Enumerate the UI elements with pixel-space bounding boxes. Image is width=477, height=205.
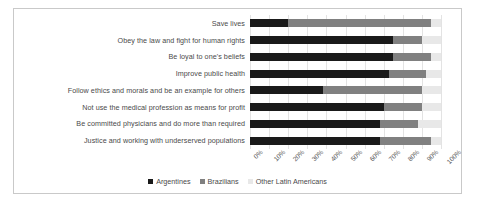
- bar-row: [250, 99, 441, 116]
- bar-segment: [288, 19, 431, 27]
- category-label: Obey the law and fight for human rights: [16, 32, 248, 49]
- axis-tick-label: 40%: [330, 149, 344, 163]
- bar-segment: [426, 70, 441, 78]
- bar-segment: [384, 103, 422, 111]
- axis-tick-label: 100%: [446, 149, 463, 166]
- bar-row: [250, 49, 441, 66]
- bar-track: [250, 137, 441, 145]
- bar-track: [250, 19, 441, 27]
- bar-row: [250, 15, 441, 32]
- axis-tick-label: 70%: [388, 149, 402, 163]
- legend-item: Brazilians: [200, 178, 239, 185]
- category-label: Follow ethics and morals and be an examp…: [16, 82, 248, 99]
- bar-track: [250, 86, 441, 94]
- gridline: [441, 15, 442, 149]
- bar-row: [250, 82, 441, 99]
- axis-tick-label: 0%: [253, 149, 264, 160]
- category-label: Be loyal to one's beliefs: [16, 49, 248, 66]
- bar-row: [250, 132, 441, 149]
- bar-track: [250, 120, 441, 128]
- bar-segment: [393, 53, 431, 61]
- legend-swatch-icon: [148, 179, 153, 184]
- category-axis: Save livesObey the law and fight for hum…: [16, 15, 248, 149]
- bar-track: [250, 70, 441, 78]
- axis-tick-label: 10%: [273, 149, 287, 163]
- bar-segment: [323, 86, 422, 94]
- category-label: Save lives: [16, 15, 248, 32]
- legend-swatch-icon: [248, 179, 253, 184]
- bar-segment: [250, 19, 288, 27]
- value-axis: 0%10%20%30%40%50%60%70%80%90%100%: [250, 149, 441, 177]
- bar-segment: [418, 120, 441, 128]
- bar-segment: [422, 103, 441, 111]
- axis-tick-label: 80%: [407, 149, 421, 163]
- category-label: Not use the medical profession as means …: [16, 99, 248, 116]
- axis-tick-label: 50%: [349, 149, 363, 163]
- category-label: Be committed physicians and do more than…: [16, 116, 248, 133]
- bar-series-group: [250, 15, 441, 149]
- bar-row: [250, 116, 441, 133]
- plot-area: [250, 15, 441, 149]
- bar-segment: [380, 120, 418, 128]
- bar-segment: [422, 36, 441, 44]
- legend-label: Other Latin Americans: [256, 178, 327, 185]
- bar-segment: [380, 137, 432, 145]
- bar-segment: [393, 36, 422, 44]
- bar-segment: [431, 53, 441, 61]
- axis-tick-label: 30%: [311, 149, 325, 163]
- legend-item: Argentines: [148, 178, 190, 185]
- chart-legend: ArgentinesBraziliansOther Latin American…: [14, 178, 461, 185]
- bar-segment: [250, 120, 380, 128]
- bar-segment: [250, 86, 323, 94]
- bar-segment: [422, 86, 441, 94]
- category-label: Justice and working with underserved pop…: [16, 132, 248, 149]
- axis-tick-label: 20%: [292, 149, 306, 163]
- legend-label: Brazilians: [208, 178, 239, 185]
- bar-segment: [250, 103, 384, 111]
- legend-swatch-icon: [200, 179, 205, 184]
- bar-track: [250, 36, 441, 44]
- bar-segment: [250, 53, 393, 61]
- bar-segment: [250, 137, 380, 145]
- legend-item: Other Latin Americans: [248, 178, 327, 185]
- category-label: Improve public health: [16, 65, 248, 82]
- chart-plot-wrapper: Save livesObey the law and fight for hum…: [14, 9, 461, 193]
- bar-segment: [431, 19, 441, 27]
- bar-segment: [250, 70, 389, 78]
- axis-tick-label: 60%: [368, 149, 382, 163]
- legend-label: Argentines: [156, 178, 190, 185]
- bar-track: [250, 53, 441, 61]
- bar-segment: [431, 137, 441, 145]
- bar-segment: [389, 70, 425, 78]
- bar-track: [250, 103, 441, 111]
- bar-row: [250, 32, 441, 49]
- bar-row: [250, 65, 441, 82]
- axis-tick-label: 90%: [426, 149, 440, 163]
- bar-segment: [250, 36, 393, 44]
- chart-container: Save livesObey the law and fight for hum…: [13, 8, 462, 194]
